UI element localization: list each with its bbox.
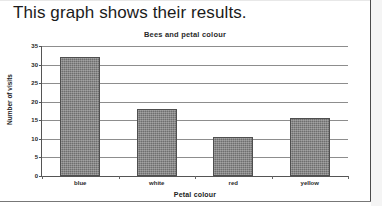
y-axis-tick-label: 20 [20,99,38,105]
x-axis-title: Petal colour [42,191,348,198]
scanned-page: This graph shows their results. Bees and… [0,0,382,206]
x-axis-label-blue: blue [74,180,86,186]
y-axis-tick-labels: 05101520253035 [18,46,38,176]
x-axis-tick-mark [272,176,273,179]
x-axis-tick-mark [348,176,349,179]
x-axis-tick-marks [42,28,348,188]
y-axis-tick-label: 10 [20,136,38,142]
x-axis-label-yellow: yellow [301,180,319,186]
y-axis-tick-label: 30 [20,62,38,68]
bar-chart: Bees and petal colour Number of visits 0… [0,28,370,200]
y-axis-tick-label: 35 [20,43,38,49]
x-axis-label-white: white [149,180,164,186]
x-axis-tick-mark [195,176,196,179]
page-top-edge [0,0,371,1]
x-axis-tick-mark [119,176,120,179]
x-axis-tick-mark [42,176,43,179]
y-axis-tick-label: 25 [20,80,38,86]
y-axis-tick-label: 15 [20,117,38,123]
y-axis-tick-label: 5 [20,154,38,160]
y-axis-tick-label: 0 [20,173,38,179]
page-heading: This graph shows their results. [13,3,247,23]
x-axis-label-red: red [229,180,238,186]
page-outer-margin [371,0,382,206]
page-bottom-edge [0,201,371,202]
y-axis-title: Number of visits [6,60,13,140]
